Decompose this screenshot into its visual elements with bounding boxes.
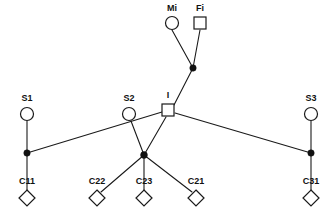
edge-s2-jmid <box>131 121 144 155</box>
labels-layer: MiFiIS1S2S3C11C22C23C21C31 <box>19 3 319 186</box>
node-c22-diamond[interactable] <box>89 190 105 206</box>
edge-i-jmid <box>144 117 166 155</box>
node-mi-circle[interactable] <box>166 17 179 30</box>
node-label-s3: S3 <box>305 93 316 103</box>
node-label-c11: C11 <box>19 176 35 186</box>
pedigree-diagram: MiFiIS1S2S3C11C22C23C21C31 <box>0 0 336 219</box>
edge-mi-jtop <box>172 30 193 68</box>
node-label-fi: Fi <box>196 3 204 13</box>
junction-dot-j-top <box>190 65 196 71</box>
junction-dot-j-left <box>24 150 30 156</box>
node-s1-circle[interactable] <box>21 108 34 121</box>
edge-jtop-i <box>174 68 193 105</box>
node-c23-diamond[interactable] <box>136 190 152 206</box>
node-label-mi: Mi <box>167 3 177 13</box>
node-c21-diamond[interactable] <box>188 190 204 206</box>
edge-jmid-c21 <box>144 155 192 192</box>
node-s3-circle[interactable] <box>305 108 318 121</box>
edge-fi-jtop <box>193 30 200 68</box>
edge-jmid-c22 <box>101 155 144 192</box>
node-s2-circle[interactable] <box>123 108 136 121</box>
nodes-layer <box>19 17 319 207</box>
junction-dot-j-mid <box>141 152 148 159</box>
junction-dot-j-right <box>308 150 314 156</box>
pedigree-canvas: MiFiIS1S2S3C11C22C23C21C31 <box>0 0 336 219</box>
node-label-s2: S2 <box>123 93 134 103</box>
node-c31-diamond[interactable] <box>303 190 319 206</box>
node-c11-diamond[interactable] <box>19 190 35 206</box>
edge-i-jleft <box>27 112 162 153</box>
node-fi-square[interactable] <box>194 17 206 29</box>
node-label-c21: C21 <box>188 176 205 186</box>
node-label-c23: C23 <box>136 176 153 186</box>
node-i-square[interactable] <box>162 104 174 116</box>
node-label-i: I <box>167 90 170 100</box>
edge-i-jright <box>175 113 311 153</box>
node-label-s1: S1 <box>21 93 32 103</box>
node-label-c31: C31 <box>303 176 320 186</box>
node-label-c22: C22 <box>89 176 106 186</box>
